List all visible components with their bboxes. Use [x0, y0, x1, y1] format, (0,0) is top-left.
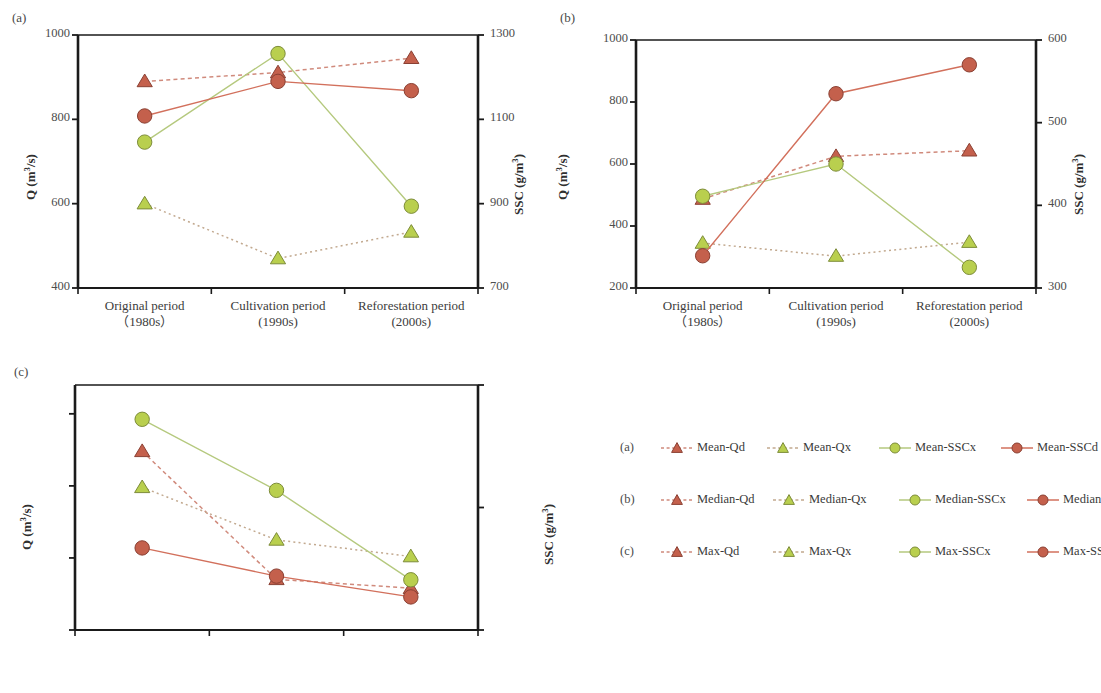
data-point-triangle	[137, 74, 152, 87]
legend-item-label: Max-SSCd	[1063, 544, 1101, 559]
panel-b-plot	[540, 0, 1101, 350]
legend-swatch-triangle-icon	[772, 545, 806, 559]
data-point-circle	[404, 199, 418, 213]
data-point-circle	[695, 189, 709, 203]
legend-item-label: Median-SSCx	[935, 492, 1006, 507]
panel-a: (a) Q (m3/s) SSC (g/m3) 4006008001000 70…	[0, 0, 530, 350]
legend-row-tag: (a)	[620, 440, 650, 455]
panel-c: (c) Q (m3/s) SSC (g/m3) 050001000015000 …	[0, 350, 560, 693]
legend-row-b: (b)Median-QdMedian-QxMedian-SSCxMedian-S…	[620, 492, 650, 507]
legend-item-label: Max-SSCx	[935, 544, 991, 559]
legend-item-label: Median-Qd	[697, 492, 755, 507]
legend-swatch-triangle-icon	[766, 441, 800, 455]
panel-b: (b) Q (m3/s) SSC (g/m3) 2004006008001000…	[540, 0, 1101, 350]
data-point-circle	[404, 573, 418, 587]
panel-a-plot	[0, 0, 530, 350]
legend-item-label: Mean-Qx	[803, 440, 851, 455]
legend: (a)Mean-QdMean-QxMean-SSCxMean-SSCd(b)Me…	[620, 440, 1101, 580]
legend-swatch-circle-icon	[1026, 545, 1060, 559]
legend-item-label: Mean-SSCd	[1037, 440, 1098, 455]
legend-item-median-sscx[interactable]: Median-SSCx	[898, 492, 1006, 507]
legend-item-max-qx[interactable]: Max-Qx	[772, 544, 851, 559]
legend-swatch-triangle-icon	[660, 545, 694, 559]
legend-item-label: Mean-Qd	[697, 440, 745, 455]
legend-item-max-sscd[interactable]: Max-SSCd	[1026, 544, 1101, 559]
legend-item-mean-qd[interactable]: Mean-Qd	[660, 440, 745, 455]
data-point-triangle	[828, 249, 843, 262]
data-point-circle	[135, 541, 149, 555]
legend-row-c: (c)Max-QdMax-QxMax-SSCxMax-SSCd	[620, 544, 650, 559]
legend-swatch-triangle-icon	[660, 441, 694, 455]
legend-swatch-triangle-icon	[660, 493, 694, 507]
data-point-circle	[137, 135, 151, 149]
data-point-triangle	[135, 444, 150, 457]
legend-swatch-circle-icon	[898, 545, 932, 559]
data-point-triangle	[695, 236, 710, 249]
data-point-circle	[137, 109, 151, 123]
data-point-triangle	[404, 51, 419, 64]
legend-item-median-sscd[interactable]: Median-SSCd	[1026, 492, 1101, 507]
data-point-triangle	[962, 235, 977, 248]
data-point-triangle	[403, 549, 418, 562]
data-point-circle	[135, 412, 149, 426]
legend-swatch-circle-icon	[878, 441, 912, 455]
series-line	[142, 451, 411, 588]
data-point-circle	[962, 260, 976, 274]
data-point-circle	[269, 483, 283, 497]
data-point-triangle	[404, 225, 419, 238]
legend-swatch-circle-icon	[898, 493, 932, 507]
legend-row-a: (a)Mean-QdMean-QxMean-SSCxMean-SSCd	[620, 440, 650, 455]
data-point-circle	[695, 249, 709, 263]
legend-item-label: Median-Qx	[809, 492, 867, 507]
legend-swatch-circle-icon	[1026, 493, 1060, 507]
legend-item-max-qd[interactable]: Max-Qd	[660, 544, 739, 559]
data-point-triangle	[962, 143, 977, 156]
legend-swatch-circle-icon	[1000, 441, 1034, 455]
data-point-circle	[404, 83, 418, 97]
data-point-circle	[829, 87, 843, 101]
legend-item-label: Mean-SSCx	[915, 440, 976, 455]
data-point-triangle	[269, 533, 284, 546]
legend-item-max-sscx[interactable]: Max-SSCx	[898, 544, 991, 559]
legend-item-mean-sscd[interactable]: Mean-SSCd	[1000, 440, 1098, 455]
legend-item-mean-sscx[interactable]: Mean-SSCx	[878, 440, 976, 455]
data-point-triangle	[137, 196, 152, 209]
data-point-triangle	[270, 251, 285, 264]
data-point-circle	[269, 569, 283, 583]
panel-c-plot	[0, 350, 560, 693]
data-point-triangle	[135, 480, 150, 493]
legend-item-label: Max-Qx	[809, 544, 851, 559]
legend-swatch-triangle-icon	[772, 493, 806, 507]
legend-row-tag: (b)	[620, 492, 650, 507]
data-point-circle	[404, 590, 418, 604]
legend-row-tag: (c)	[620, 544, 650, 559]
legend-item-median-qx[interactable]: Median-Qx	[772, 492, 867, 507]
legend-item-mean-qx[interactable]: Mean-Qx	[766, 440, 851, 455]
legend-item-median-qd[interactable]: Median-Qd	[660, 492, 755, 507]
data-point-circle	[271, 46, 285, 60]
legend-item-label: Max-Qd	[697, 544, 739, 559]
data-point-circle	[829, 157, 843, 171]
data-point-circle	[271, 74, 285, 88]
data-point-circle	[962, 58, 976, 72]
legend-item-label: Median-SSCd	[1063, 492, 1101, 507]
